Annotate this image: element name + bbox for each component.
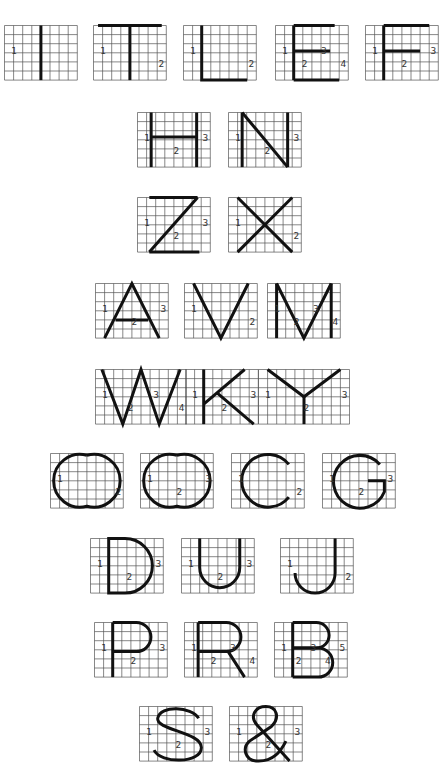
- letter-grid-u: 123: [181, 538, 255, 594]
- grid-diagram: 12: [228, 197, 302, 253]
- stroke-order-number: 3: [321, 46, 327, 56]
- stroke-order-number: 1: [191, 304, 197, 314]
- stroke-order-number: 3: [160, 643, 166, 653]
- stroke-order-number: 2: [130, 656, 136, 666]
- grid-diagram: 123: [181, 538, 255, 594]
- stroke-order-number: 2: [159, 59, 165, 69]
- stroke-order-number: 1: [274, 304, 280, 314]
- stroke-order-number: 3: [161, 304, 167, 314]
- letter-grid-s: 123: [139, 706, 213, 762]
- stroke-order-number: 2: [128, 403, 134, 413]
- stroke-order-number: 1: [329, 474, 335, 484]
- grid-diagram: 123: [95, 283, 169, 339]
- stroke-order-number: 1: [102, 304, 108, 314]
- letter-grid-h: 123: [137, 112, 211, 168]
- stroke-order-number: 2: [302, 59, 308, 69]
- stroke-order-number: 1: [191, 643, 197, 653]
- stroke-order-number: 4: [341, 59, 347, 69]
- stroke-order-number: 3: [206, 474, 212, 484]
- stroke-order-number: 2: [249, 59, 255, 69]
- stroke-order-number: 3: [313, 304, 319, 314]
- stroke-order-number: 2: [294, 317, 300, 327]
- stroke-order-number: 1: [102, 390, 108, 400]
- stroke-order-number: 2: [175, 740, 181, 750]
- stroke-order-number: 1: [57, 474, 63, 484]
- grid-diagram: 12: [184, 283, 258, 339]
- stroke-order-number: 2: [304, 403, 310, 413]
- stroke-order-number: 3: [205, 727, 211, 737]
- stroke-order-number: 1: [188, 559, 194, 569]
- stroke-order-number: 3: [203, 133, 209, 143]
- stroke-order-number: 1: [146, 727, 152, 737]
- stroke-order-number: 1: [144, 133, 150, 143]
- grid-diagram: 123: [90, 538, 164, 594]
- stroke-order-number: 2: [401, 59, 407, 69]
- grid-diagram: 123: [322, 453, 396, 509]
- grid-diagram: 1234: [267, 283, 341, 339]
- stroke-order-number: 2: [221, 403, 227, 413]
- stroke-order-number: 2: [346, 572, 352, 582]
- stroke-order-number: 2: [173, 146, 179, 156]
- stroke-order-number: 4: [250, 656, 256, 666]
- stroke-order-number: 1: [238, 474, 244, 484]
- stroke-order-number: 4: [333, 317, 339, 327]
- letter-grid-q: 123: [140, 453, 214, 509]
- letter-grid-c: 12: [231, 453, 305, 509]
- stroke-order-number: 1: [144, 218, 150, 228]
- letter-grid-d: 123: [90, 538, 164, 594]
- stroke-order-number: 3: [203, 218, 209, 228]
- stroke-order-number: 1: [372, 46, 378, 56]
- grid-diagram: 123: [137, 197, 211, 253]
- grid-diagram: 1234: [275, 25, 349, 81]
- letter-grid-g: 123: [322, 453, 396, 509]
- stroke-order-number: 3: [342, 390, 348, 400]
- stroke-order-number: 1: [236, 727, 242, 737]
- stroke-order-number: 5: [340, 643, 346, 653]
- letter-grid-e: 1234: [275, 25, 349, 81]
- stroke-order-number: 2: [297, 487, 303, 497]
- stroke-order-number: 2: [265, 740, 271, 750]
- letter-grid-x: 12: [228, 197, 302, 253]
- stroke-order-number: 1: [100, 46, 106, 56]
- letter-grid-m: 1234: [267, 283, 341, 339]
- grid-diagram: 123: [258, 369, 350, 425]
- stroke-order-number: 1: [190, 46, 196, 56]
- stroke-order-number: 1: [282, 46, 288, 56]
- stroke-order-number: 2: [296, 656, 302, 666]
- letter-grid-n: 123: [228, 112, 302, 168]
- stroke-order-number: 3: [153, 390, 159, 400]
- stroke-order-number: 1: [281, 643, 287, 653]
- stroke-order-number: 2: [116, 487, 122, 497]
- letter-grid-p: 123: [94, 622, 168, 678]
- letter-grid-f: 123: [365, 25, 439, 81]
- grid-diagram: 12: [93, 25, 167, 81]
- letter-grid-l: 12: [183, 25, 257, 81]
- stroke-order-number: 1: [287, 559, 293, 569]
- letter-grid-w: 1234: [95, 369, 187, 425]
- stroke-order-number: 2: [126, 572, 132, 582]
- stroke-order-number: 1: [11, 46, 17, 56]
- letter-grid-y: 123: [258, 369, 350, 425]
- grid-diagram: 1234: [95, 369, 187, 425]
- letter-grid-a: 123: [95, 283, 169, 339]
- stroke-order-number: 1: [235, 218, 241, 228]
- stroke-order-number: 2: [217, 572, 223, 582]
- grid-diagram: 123: [229, 706, 303, 762]
- grid-diagram: 1: [4, 25, 78, 81]
- stroke-order-number: 2: [211, 656, 217, 666]
- stroke-order-number: 1: [97, 559, 103, 569]
- letter-grid-i: 1: [4, 25, 78, 81]
- stroke-order-number: 2: [358, 487, 364, 497]
- stroke-order-number: 2: [131, 317, 137, 327]
- grid-diagram: 12: [231, 453, 305, 509]
- grid-diagram: 123: [139, 706, 213, 762]
- stroke-order-number: 3: [388, 474, 394, 484]
- letter-grid-ampersand: 123: [229, 706, 303, 762]
- stroke-order-number: 4: [325, 656, 331, 666]
- grid-diagram: 12: [50, 453, 124, 509]
- stroke-order-number: 1: [265, 390, 271, 400]
- grid-diagram: 1234: [184, 622, 258, 678]
- stroke-order-number: 2: [264, 146, 270, 156]
- grid-diagram: 12: [280, 538, 354, 594]
- grid-diagram: 12: [183, 25, 257, 81]
